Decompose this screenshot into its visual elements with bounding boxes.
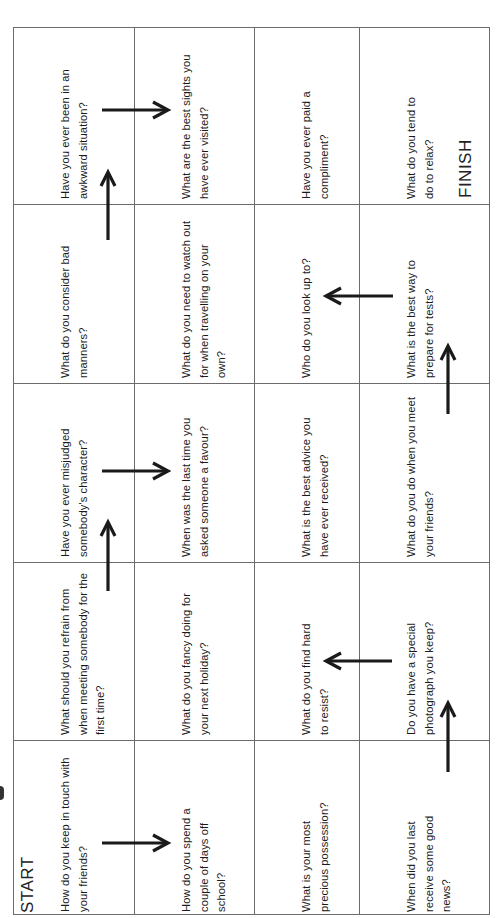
finish-label: FINISH xyxy=(456,139,476,198)
question-r4c3: What do you find hard to resist? xyxy=(298,615,333,735)
question-r1c3: Have you ever paid a compliment? xyxy=(298,79,333,199)
question-r1c2: What are the best sights you have ever v… xyxy=(178,39,213,199)
question-r2c1: What do you consider bad manners? xyxy=(57,218,92,378)
start-label: START xyxy=(18,856,38,913)
question-r5c2: How do you spend a couple of days off sc… xyxy=(178,792,231,912)
question-r5c1: How do you keep in touch with your frien… xyxy=(57,747,92,912)
question-r3c4: What do you do when you meet your friend… xyxy=(403,387,438,557)
question-r1c1: Have you ever been in an awkward situati… xyxy=(57,39,92,199)
board-game-worksheet: Have you ever been in an awkward situati… xyxy=(0,0,500,918)
page-edge-mark xyxy=(0,786,4,800)
question-r3c1: Have you ever misjudged somebody's chara… xyxy=(57,397,92,557)
question-r1c4: What do you tend to do to relax? xyxy=(403,87,438,199)
question-r3c2: When was the last time you asked someone… xyxy=(178,397,213,557)
question-r2c2: What do you need to watch out for when t… xyxy=(178,216,231,378)
question-r4c2: What do you fancy doing for your next ho… xyxy=(178,575,213,735)
question-r2c3: Who do you look up to? xyxy=(298,218,316,378)
question-r4c1: What should you refrain from when meetin… xyxy=(57,570,110,735)
question-r3c3: What is the best advice you have ever re… xyxy=(298,397,333,557)
question-r5c4: When did you last receive some good news… xyxy=(403,787,456,912)
question-r2c4: What is the best way to prepare for test… xyxy=(403,243,438,378)
question-r4c4: Do you have a special photograph you kee… xyxy=(403,610,438,735)
question-r5c3: What is your most precious possession? xyxy=(298,802,333,912)
